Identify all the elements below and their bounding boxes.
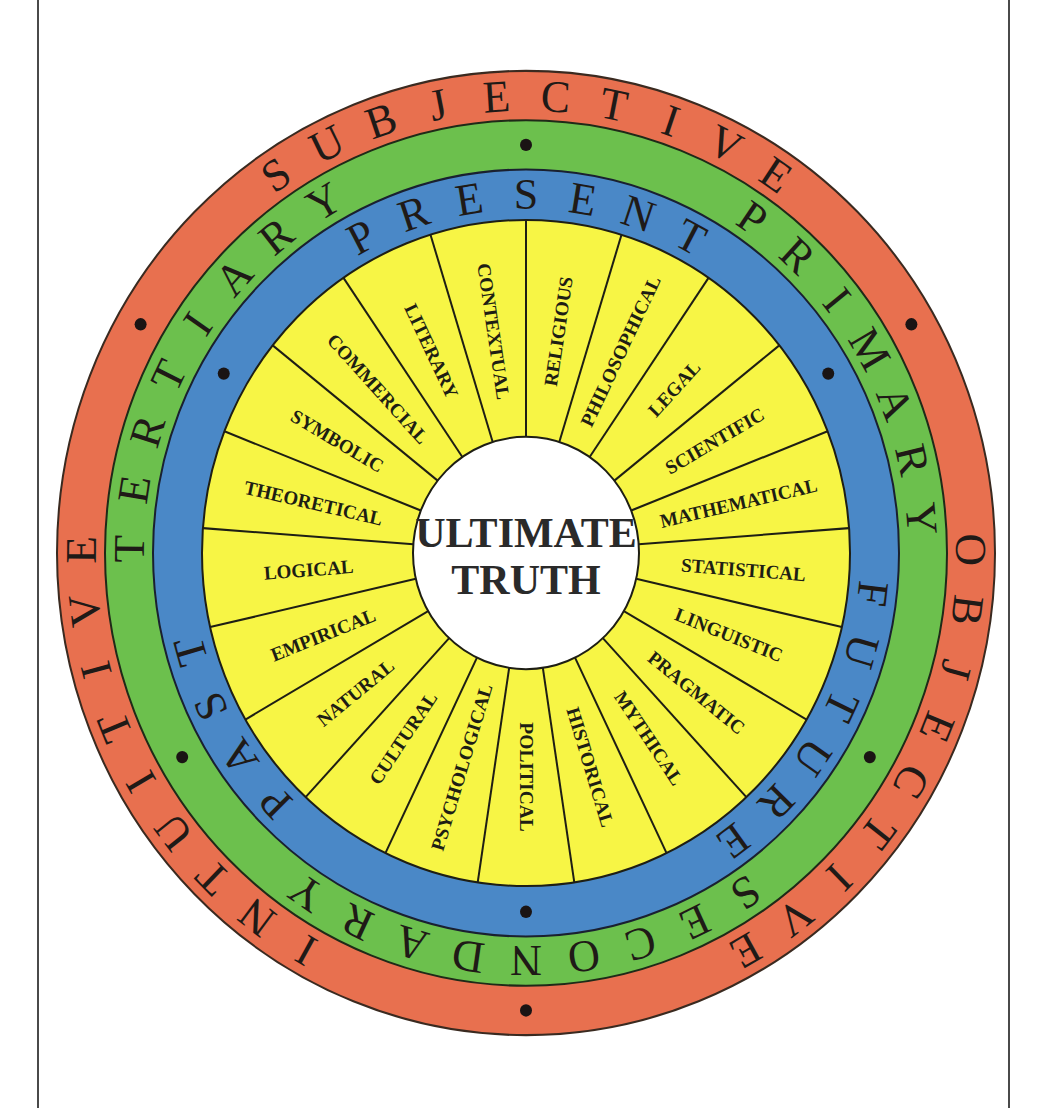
separator-dot xyxy=(176,751,188,763)
ring-word-objective-letter: O xyxy=(946,533,996,566)
center-title-line2: TRUTH xyxy=(451,557,600,603)
separator-dot xyxy=(864,751,876,763)
ring-word-objective-letter: B xyxy=(941,592,994,628)
separator-dot xyxy=(520,906,532,918)
ring-word-subjective-letter: E xyxy=(481,70,511,122)
separator-dot xyxy=(218,367,230,379)
ring-word-intuitive-letter: V xyxy=(58,591,111,630)
ring-word-subjective-letter: C xyxy=(539,70,572,123)
separator-dot xyxy=(822,367,834,379)
ring-word-secondary-letter: N xyxy=(510,936,542,987)
ring-word-tertiary-letter: T xyxy=(104,535,154,563)
ring-word-primary-letter: Y xyxy=(896,500,948,537)
separator-dot xyxy=(520,139,532,151)
ring-word-intuitive-letter: E xyxy=(56,536,105,564)
ring-word-present-letter: S xyxy=(514,169,538,220)
separator-dot xyxy=(905,318,917,330)
center-title-line1: ULTIMATE xyxy=(415,510,637,556)
segment-label-political: POLITICAL xyxy=(516,722,537,832)
separator-dot xyxy=(520,1004,532,1016)
separator-dot xyxy=(135,318,147,330)
